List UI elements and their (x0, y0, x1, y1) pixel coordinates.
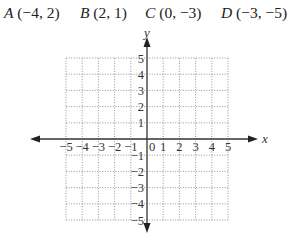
x-tick-label: 0 (149, 140, 155, 154)
x-tick-label: 3 (192, 140, 198, 154)
coordinate-plane: x y −5−4−3−2−101234554321−1−2−3−4−5 (0, 0, 300, 235)
y-tick-label: 2 (138, 100, 144, 114)
y-axis-down-arrow-icon (144, 223, 151, 233)
x-tick-label: −4 (76, 140, 90, 154)
y-tick-label: −5 (131, 214, 144, 228)
x-axis-label: x (261, 131, 268, 146)
y-tick-label: 5 (138, 52, 144, 66)
x-tick-label: 2 (176, 140, 182, 154)
y-tick-label: −3 (131, 181, 144, 195)
y-tick-label: −4 (131, 197, 145, 211)
y-tick-label: 1 (138, 116, 144, 130)
x-tick-label: 1 (160, 140, 166, 154)
x-tick-label: −5 (59, 140, 72, 154)
x-tick-label: 4 (209, 140, 216, 154)
y-tick-label: 4 (138, 68, 145, 82)
y-tick-label: −1 (131, 149, 144, 163)
x-tick-label: −2 (108, 140, 121, 154)
x-tick-label: 5 (225, 140, 231, 154)
x-axis-left-arrow-icon (30, 136, 40, 143)
y-tick-label: 3 (138, 84, 144, 98)
x-tick-label: −3 (92, 140, 105, 154)
x-axis-right-arrow-icon (248, 136, 258, 143)
y-axis-label: y (142, 25, 150, 40)
y-tick-label: −2 (131, 165, 144, 179)
